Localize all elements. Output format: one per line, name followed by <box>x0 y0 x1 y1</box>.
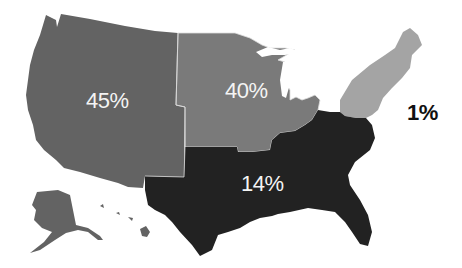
us-regions-map <box>0 0 462 268</box>
label-west: 45% <box>86 88 129 114</box>
region-west <box>26 14 185 253</box>
label-northeast: 1% <box>407 100 438 126</box>
alaska-shape <box>30 190 103 253</box>
label-midwest: 40% <box>225 78 268 104</box>
hawaii-shape <box>100 204 150 237</box>
label-south: 14% <box>241 171 284 197</box>
